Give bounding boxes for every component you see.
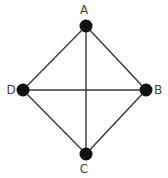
edges [23, 26, 146, 154]
edge-c-d [23, 90, 86, 154]
edge-a-b [86, 26, 146, 90]
label-a: A [80, 3, 89, 17]
node-a [80, 20, 93, 33]
node-b [140, 84, 153, 97]
label-d: D [6, 83, 15, 97]
node-c [80, 148, 93, 161]
edge-b-c [86, 90, 146, 154]
graph-diagram: A B C D [0, 0, 168, 178]
node-d [17, 84, 30, 97]
label-b: B [154, 83, 162, 97]
label-c: C [80, 162, 88, 176]
edge-d-a [23, 26, 86, 90]
